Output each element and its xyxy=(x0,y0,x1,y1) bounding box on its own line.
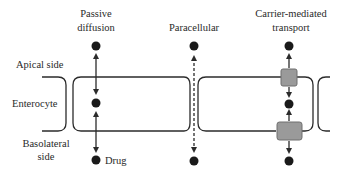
passive-diffusion-path xyxy=(92,42,101,165)
cell-right-partial xyxy=(318,77,330,131)
drug-dot-cell xyxy=(285,100,294,109)
drug-dot-apical xyxy=(285,42,294,51)
apical-side-label: Apical side xyxy=(16,59,64,70)
enterocyte-label: Enterocyte xyxy=(12,98,58,109)
cell-paracellular-right xyxy=(198,77,276,131)
drug-dot-apical xyxy=(190,42,199,51)
transport-diagram: Passive diffusion Paracellular Carrier-m… xyxy=(0,0,345,178)
carrier-mediated-path xyxy=(277,42,302,166)
basolateral-label-line1: Basolateral xyxy=(22,138,69,149)
column-title-carrier-line1: Carrier-mediated xyxy=(255,8,327,19)
paracellular-path xyxy=(190,42,199,166)
column-title-passive-line1: Passive xyxy=(80,8,112,19)
drug-dot-basolateral xyxy=(190,157,199,166)
cell-paracellular-left xyxy=(184,77,190,131)
drug-label: Drug xyxy=(105,155,127,166)
column-title-passive-line2: diffusion xyxy=(77,22,115,33)
drug-dot-basolateral xyxy=(92,156,101,165)
basolateral-label-line2: side xyxy=(38,151,55,162)
drug-dot-basolateral xyxy=(285,157,294,166)
drug-dot-cell xyxy=(92,99,101,108)
column-title-paracellular: Paracellular xyxy=(169,22,220,33)
column-title-carrier-line2: transport xyxy=(272,22,309,33)
carrier-protein-apical xyxy=(281,69,297,86)
cell-passive xyxy=(73,77,184,131)
drug-dot-apical xyxy=(92,42,101,51)
carrier-protein-basolateral xyxy=(277,122,302,140)
